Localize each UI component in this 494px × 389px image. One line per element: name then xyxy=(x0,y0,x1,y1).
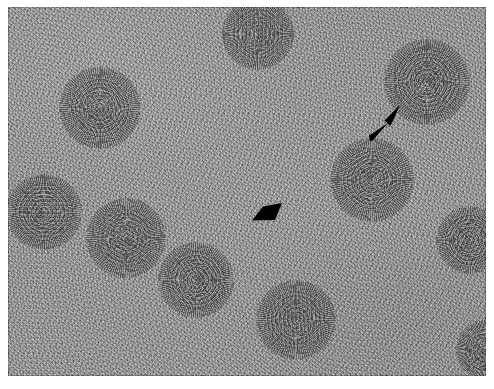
micrograph-plate xyxy=(8,7,486,376)
virus-particle xyxy=(59,67,141,149)
virus-particle xyxy=(328,136,416,224)
arrowhead-icon xyxy=(250,195,286,225)
micrograph-figure xyxy=(0,0,494,389)
virus-particle xyxy=(154,238,238,322)
particle-capsid-core xyxy=(69,77,131,139)
arrow-icon xyxy=(360,99,408,147)
